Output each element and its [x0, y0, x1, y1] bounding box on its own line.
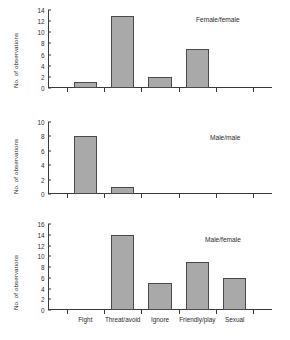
bar [148, 77, 171, 88]
x-axis-tick [253, 88, 254, 92]
x-axis-tick [141, 310, 142, 314]
y-axis-tick-label: 4 [41, 285, 48, 292]
x-axis-tick [216, 310, 217, 314]
bar [111, 235, 134, 310]
x-axis-tick [67, 194, 68, 198]
plot-area: 0246810121416 [48, 224, 272, 310]
x-axis-tick-label: Ignore [151, 316, 169, 323]
y-axis-tick-label: 10 [37, 29, 48, 36]
x-axis-tick [67, 88, 68, 92]
bar [186, 49, 209, 88]
bar [111, 16, 134, 88]
bar [111, 187, 134, 194]
x-axis-tick-label: Sexual [225, 316, 245, 323]
chart-panel-male-male: No. of observationsMale/male0246810 [0, 112, 290, 216]
y-axis-tick-label: 14 [37, 7, 48, 14]
y-axis-line [48, 122, 49, 194]
bar [186, 262, 209, 310]
y-axis-tick-label: 12 [37, 18, 48, 25]
y-axis-tick-label: 2 [41, 176, 48, 183]
chart-panel-male-female: No. of observationsMale/female0246810121… [0, 216, 290, 340]
bar [223, 278, 246, 310]
y-axis-tick-label: 12 [37, 242, 48, 249]
x-axis-tick [179, 88, 180, 92]
y-axis-tick-label: 16 [37, 221, 48, 228]
y-axis-tick-label: 2 [41, 73, 48, 80]
x-axis-tick [253, 310, 254, 314]
y-axis-tick-label: 2 [41, 296, 48, 303]
y-axis-label: No. of observations [12, 296, 19, 310]
x-axis-tick [141, 88, 142, 92]
bar [74, 136, 97, 194]
x-axis-tick [141, 194, 142, 198]
y-axis-tick-label: 0 [41, 307, 48, 314]
y-axis-tick-label: 4 [41, 162, 48, 169]
y-axis-tick-label: 0 [41, 85, 48, 92]
plot-area: 0246810 [48, 122, 272, 194]
x-axis-tick [179, 310, 180, 314]
x-axis-tick [104, 194, 105, 198]
y-axis-label: No. of observations [12, 180, 19, 194]
y-axis-label: No. of observations [12, 74, 19, 88]
x-axis-tick [67, 310, 68, 314]
y-axis-tick-label: 6 [41, 274, 48, 281]
y-axis-tick-label: 6 [41, 147, 48, 154]
plot-area: 02468101214 [48, 10, 272, 88]
x-axis-tick [253, 194, 254, 198]
x-axis-tick-label: Fight [78, 316, 92, 323]
bar [148, 283, 171, 310]
chart-panel-female-female: No. of observationsFemale/female02468101… [0, 0, 290, 112]
x-axis-tick [216, 88, 217, 92]
bar [74, 82, 97, 88]
x-axis-tick-label: Friendly/play [179, 316, 215, 323]
y-axis-tick-label: 4 [41, 62, 48, 69]
y-axis-tick-label: 14 [37, 231, 48, 238]
x-axis-tick [179, 194, 180, 198]
y-axis-tick-label: 8 [41, 133, 48, 140]
x-axis-tick-label: Threat/avoid [105, 316, 141, 323]
y-axis-tick-label: 10 [37, 253, 48, 260]
x-axis-tick [104, 310, 105, 314]
y-axis-tick-label: 8 [41, 264, 48, 271]
y-axis-tick-label: 10 [37, 119, 48, 126]
x-axis-tick [104, 88, 105, 92]
y-axis-tick-label: 6 [41, 51, 48, 58]
y-axis-tick-label: 8 [41, 40, 48, 47]
y-axis-tick-label: 0 [41, 191, 48, 198]
x-axis-tick [216, 194, 217, 198]
